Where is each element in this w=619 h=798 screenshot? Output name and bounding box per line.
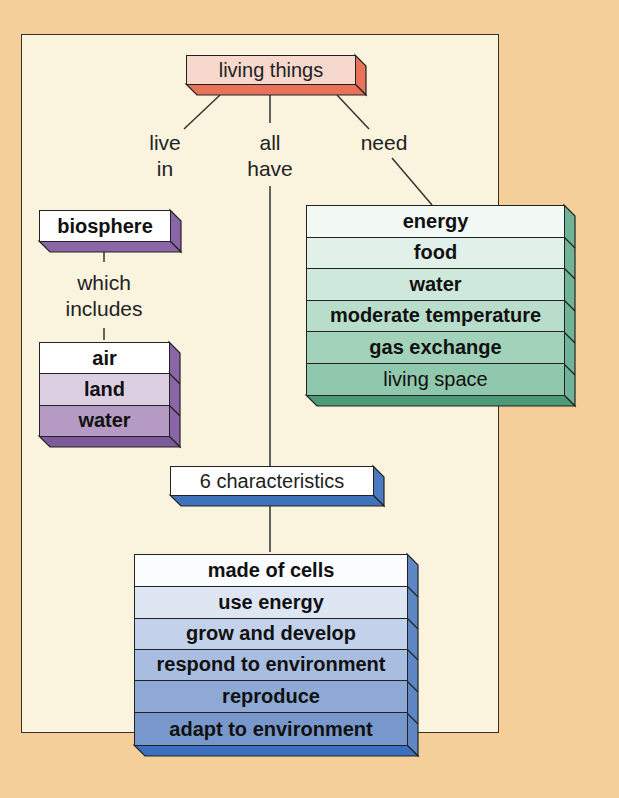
characteristic-respond-to-environment: respond to environment [135,650,407,682]
need-item-energy: energy [307,206,564,238]
biosphere-item-air: air [40,343,169,374]
need-item-gas-exchange: gas exchange [307,332,564,364]
characteristic-grow-and-develop: grow and develop [135,619,407,650]
connector-live-in-line2: in [140,156,190,182]
characteristic-made-of-cells: made of cells [135,555,407,587]
need-item-water: water [307,269,564,301]
need-item-moderate-temperature: moderate temperature [307,301,564,333]
characteristic-adapt-to-environment: adapt to environment [135,713,407,745]
connector-all-have: all have [236,130,304,182]
characteristic-use-energy: use energy [135,587,407,619]
node-biosphere-label: biosphere [39,210,171,242]
node-6-characteristics-label: 6 characteristics [170,466,374,496]
need-item-living-space: living space [307,364,564,395]
connector-which-includes: which includes [54,270,154,322]
characteristic-reproduce: reproduce [135,681,407,713]
need-item-food: food [307,238,564,269]
connector-live-in: live in [140,130,190,182]
biosphere-item-land: land [40,374,169,405]
connector-all-have-line2: have [236,156,304,182]
connector-all-have-line1: all [236,130,304,156]
connector-live-in-line1: live [140,130,190,156]
node-living-things-label: living things [186,55,356,85]
biosphere-item-water: water [40,406,169,436]
connector-includes-line: includes [54,296,154,322]
connector-need: need [350,130,418,156]
connector-which-line: which [54,270,154,296]
